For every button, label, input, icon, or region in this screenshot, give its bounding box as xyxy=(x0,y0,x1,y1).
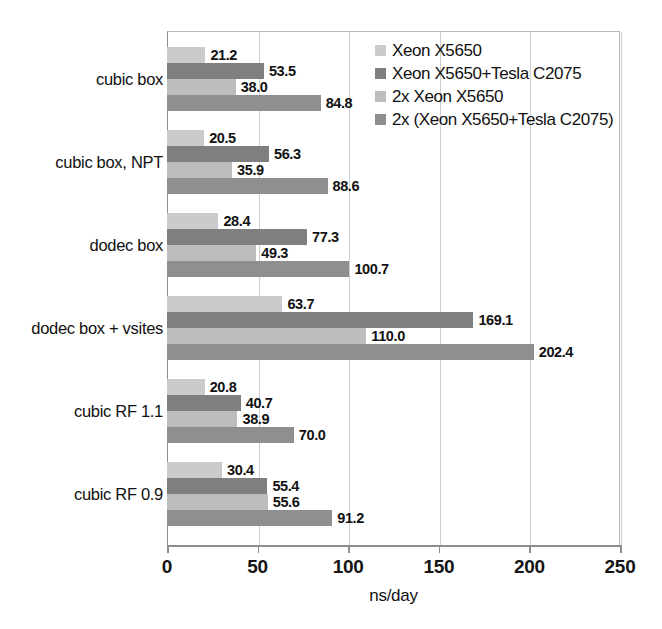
bar xyxy=(167,510,332,526)
x-tick-mark xyxy=(348,545,350,553)
bar-value-label: 20.8 xyxy=(210,379,237,395)
x-tick-mark xyxy=(529,545,531,553)
x-tick-label: 200 xyxy=(494,556,564,578)
bar-value-label: 35.9 xyxy=(237,162,264,178)
bar-value-label: 63.7 xyxy=(287,296,314,312)
bar-value-label: 55.6 xyxy=(273,494,300,510)
legend-item[interactable]: Xeon X5650 xyxy=(375,39,613,62)
bar-value-label: 30.4 xyxy=(227,462,254,478)
bar-chart: 21.253.538.084.820.556.335.988.628.477.3… xyxy=(0,0,662,629)
bar-value-label: 40.7 xyxy=(246,395,273,411)
x-tick-label: 50 xyxy=(223,556,293,578)
x-tick-label: 0 xyxy=(132,556,202,578)
bar xyxy=(167,229,307,245)
legend-label: Xeon X5650+Tesla C2075 xyxy=(392,64,581,84)
bar-value-label: 56.3 xyxy=(274,146,301,162)
legend-item[interactable]: Xeon X5650+Tesla C2075 xyxy=(375,62,613,85)
bar xyxy=(167,63,264,79)
bar xyxy=(167,379,205,395)
legend-swatch-icon xyxy=(375,91,386,102)
bar xyxy=(167,162,232,178)
bar-value-label: 70.0 xyxy=(299,427,326,443)
category-label: cubic RF 0.9 xyxy=(3,485,163,504)
bar-value-label: 88.6 xyxy=(333,178,360,194)
gridline xyxy=(621,32,622,545)
bar-value-label: 28.4 xyxy=(223,213,250,229)
bar-value-label: 77.3 xyxy=(312,229,339,245)
bar xyxy=(167,494,268,510)
bar-value-label: 20.5 xyxy=(209,130,236,146)
legend-swatch-icon xyxy=(375,114,386,125)
bar-value-label: 110.0 xyxy=(371,328,405,344)
x-tick-mark xyxy=(258,545,260,553)
legend-label: 2x Xeon X5650 xyxy=(392,87,503,107)
bar xyxy=(167,328,366,344)
x-tick-mark xyxy=(620,545,622,553)
bar xyxy=(167,95,321,111)
bar-value-label: 53.5 xyxy=(269,63,296,79)
bar-value-label: 38.0 xyxy=(241,79,268,95)
bar-value-label: 49.3 xyxy=(261,245,288,261)
bar xyxy=(167,146,269,162)
category-axis: cubic boxcubic box, NPTdodec boxdodec bo… xyxy=(0,0,163,629)
category-label: cubic box xyxy=(3,70,163,89)
x-axis-line xyxy=(167,545,620,547)
bar xyxy=(167,411,237,427)
legend-swatch-icon xyxy=(375,68,386,79)
bar xyxy=(167,47,205,63)
bar-value-label: 100.7 xyxy=(354,261,388,277)
bar xyxy=(167,261,349,277)
bar xyxy=(167,344,534,360)
legend-swatch-icon xyxy=(375,45,386,56)
x-tick-label: 100 xyxy=(313,556,383,578)
bar xyxy=(167,427,294,443)
category-label: cubic RF 1.1 xyxy=(3,402,163,421)
bar-value-label: 169.1 xyxy=(478,312,512,328)
bar xyxy=(167,462,222,478)
bar xyxy=(167,312,473,328)
legend: Xeon X5650Xeon X5650+Tesla C20752x Xeon … xyxy=(375,39,613,131)
bar xyxy=(167,130,204,146)
x-tick-label: 150 xyxy=(404,556,474,578)
x-tick-mark xyxy=(439,545,441,553)
legend-label: Xeon X5650 xyxy=(392,41,482,61)
legend-label: 2x (Xeon X5650+Tesla C2075) xyxy=(392,110,613,130)
bar-value-label: 55.4 xyxy=(272,478,299,494)
bar-value-label: 21.2 xyxy=(210,47,237,63)
category-label: dodec box xyxy=(3,236,163,255)
x-tick-mark xyxy=(167,545,169,553)
bar xyxy=(167,178,328,194)
x-tick-label: 250 xyxy=(585,556,655,578)
bar-value-label: 91.2 xyxy=(337,510,364,526)
category-label: cubic box, NPT xyxy=(3,153,163,172)
bar-value-label: 84.8 xyxy=(326,95,353,111)
bar xyxy=(167,245,256,261)
legend-item[interactable]: 2x (Xeon X5650+Tesla C2075) xyxy=(375,108,613,131)
bar xyxy=(167,395,241,411)
x-axis-title: ns/day xyxy=(167,586,620,606)
bar xyxy=(167,79,236,95)
bar-value-label: 202.4 xyxy=(539,344,573,360)
legend-item[interactable]: 2x Xeon X5650 xyxy=(375,85,613,108)
bar xyxy=(167,213,218,229)
bar-value-label: 38.9 xyxy=(242,411,269,427)
bar xyxy=(167,478,267,494)
bar xyxy=(167,296,282,312)
category-label: dodec box + vsites xyxy=(3,319,163,338)
